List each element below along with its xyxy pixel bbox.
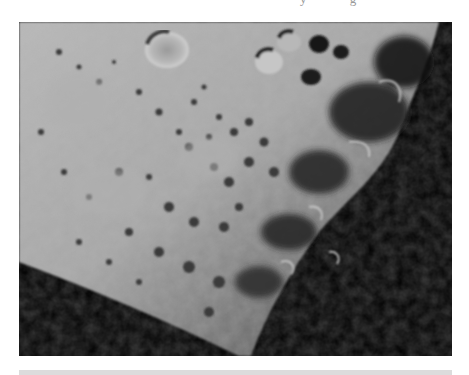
cut-off-text-line: y g xyxy=(300,0,376,7)
moon-photograph xyxy=(19,22,452,356)
caption-bar xyxy=(19,370,452,375)
moon-surface-image xyxy=(19,22,452,356)
document-page: y g xyxy=(0,0,469,375)
